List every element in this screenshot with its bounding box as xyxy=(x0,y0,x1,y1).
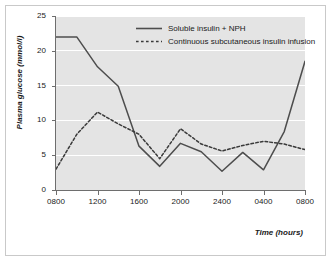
x-tick-mark xyxy=(222,191,223,195)
y-tick-label: 15 xyxy=(37,82,46,90)
x-tick-label: 2400 xyxy=(213,197,231,206)
x-tick-label: 0400 xyxy=(255,197,273,206)
x-axis-title: Time (hours) xyxy=(0,228,303,237)
x-tick-label: 0800 xyxy=(296,197,314,206)
x-tick-label: 0800 xyxy=(47,197,65,206)
legend-item-solid: Soluble insulin + NPH xyxy=(136,22,306,35)
legend-solid-line-icon xyxy=(136,24,162,33)
x-tick-label: 2000 xyxy=(172,197,190,206)
chart-legend: Soluble insulin + NPH Continuous subcuta… xyxy=(136,22,306,48)
x-tick-label: 1200 xyxy=(89,197,107,206)
legend-dashed-line-icon xyxy=(136,37,162,46)
legend-label-dashed: Continuous subcutaneous insulin infusion xyxy=(168,37,315,46)
chart-figure: Plasma glucose (mmol/l) 0510152025 08001… xyxy=(0,0,331,261)
x-tick-mark xyxy=(264,191,265,195)
x-tick-label: 1600 xyxy=(130,197,148,206)
x-tick-mark xyxy=(98,191,99,195)
y-tick-label: 10 xyxy=(37,116,46,124)
series-line-dashed xyxy=(56,112,305,169)
y-axis-ticks: 0510152025 xyxy=(0,0,51,261)
x-tick-mark xyxy=(181,191,182,195)
x-tick-mark xyxy=(139,191,140,195)
series-line-solid xyxy=(56,37,305,171)
y-tick-label: 25 xyxy=(37,12,46,20)
y-tick-label: 0 xyxy=(42,186,46,194)
x-tick-mark xyxy=(56,191,57,195)
legend-label-solid: Soluble insulin + NPH xyxy=(168,24,246,33)
x-tick-mark xyxy=(305,191,306,195)
y-tick-label: 5 xyxy=(42,151,46,159)
y-tick-label: 20 xyxy=(37,47,46,55)
legend-item-dashed: Continuous subcutaneous insulin infusion xyxy=(136,35,306,48)
